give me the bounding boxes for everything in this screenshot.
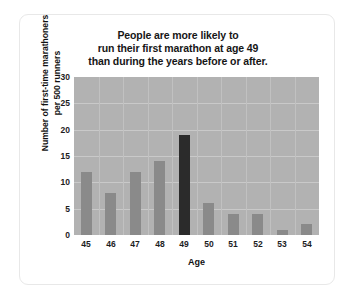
x-axis-tick-labels: 45464748495051525354 [74,239,319,253]
y-tick-label: 10 [34,177,74,187]
bar-49 [179,135,190,235]
bar-52 [252,214,263,235]
bar-51 [228,214,239,235]
y-tick-label: 15 [34,151,74,161]
bar-48 [154,161,165,235]
bar-45 [81,172,92,235]
bar-50 [203,203,214,235]
gridline-vertical [246,77,247,235]
x-tick-label: 49 [170,239,198,249]
bar-47 [130,172,141,235]
y-tick-label: 5 [34,204,74,214]
gridline-vertical [295,77,296,235]
y-axis-tick-labels: 051015202530 [26,77,74,235]
x-tick-label: 53 [268,239,296,249]
gridline-vertical [148,77,149,235]
chart-title-line-1: People are more likely to [34,29,322,42]
gridline-vertical [270,77,271,235]
x-tick-label: 47 [121,239,149,249]
gridline-vertical [197,77,198,235]
gridline-vertical [172,77,173,235]
plot-area [74,77,319,235]
chart-title-line-3: than during the years before or after. [34,55,322,68]
y-tick-label: 25 [34,98,74,108]
y-tick-label: 20 [34,125,74,135]
gridline-vertical [123,77,124,235]
x-tick-label: 54 [293,239,321,249]
y-tick-label: 0 [34,230,74,240]
gridline-vertical [221,77,222,235]
bar-53 [277,230,288,235]
bar-46 [105,193,116,235]
chart-title-line-2: run their first marathon at age 49 [34,42,322,55]
x-tick-label: 45 [72,239,100,249]
bar-54 [301,224,312,235]
y-tick-label: 30 [34,72,74,82]
x-tick-label: 51 [219,239,247,249]
gridline-vertical [99,77,100,235]
x-axis-title: Age [74,257,319,267]
chart-title: People are more likely to run their firs… [34,29,322,69]
figure-frame: People are more likely to run their firs… [19,14,335,285]
